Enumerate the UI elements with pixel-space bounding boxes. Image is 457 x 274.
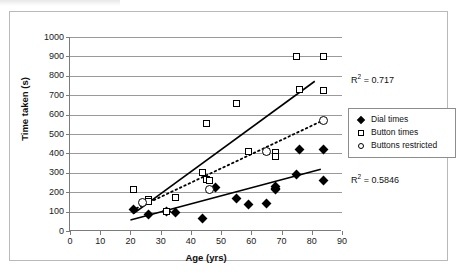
open-circle-icon — [354, 143, 368, 149]
x-axis-tick-label: 40 — [178, 237, 204, 246]
y-axis-title: Time taken (s) — [19, 54, 30, 164]
x-axis-tick — [342, 231, 343, 235]
legend-item-label: Dial times — [368, 114, 408, 125]
x-axis-tick-label: 30 — [148, 237, 174, 246]
legend-item: Dial times — [354, 113, 450, 126]
r2-annotation-dial-times: R2 = 0.5846 — [351, 172, 399, 185]
x-axis-tick-label: 50 — [208, 237, 234, 246]
x-axis-tick — [221, 231, 222, 235]
x-axis-tick — [70, 231, 71, 235]
plot-area: 01002003004005006007008009001000 0102030… — [69, 37, 341, 231]
r2-annotation-button-times: R2 = 0.717 — [351, 72, 394, 85]
x-axis-tick — [251, 231, 252, 235]
x-axis-tick-label: 70 — [269, 237, 295, 246]
trendlines — [70, 37, 342, 231]
filled-diamond-icon — [354, 117, 368, 123]
chart-screenshot: 01002003004005006007008009001000 0102030… — [0, 0, 457, 274]
legend-item-label: Button times — [368, 127, 418, 138]
x-axis-tick-label: 60 — [238, 237, 264, 246]
x-axis-tick — [130, 231, 131, 235]
r2-upper-value: = 0.717 — [361, 75, 394, 85]
legend-item: Button times — [354, 126, 450, 139]
x-axis-tick-label: 20 — [117, 237, 143, 246]
x-axis-tick-label: 10 — [87, 237, 113, 246]
x-axis-tick — [282, 231, 283, 235]
legend-item: Buttons restricted — [354, 139, 450, 152]
x-axis-title: Age (yrs) — [70, 252, 342, 263]
x-axis-tick-label: 0 — [57, 237, 83, 246]
y-axis-tick-label: 200 — [20, 188, 64, 197]
r2-lower-value: = 0.5846 — [361, 175, 399, 185]
y-axis-tick-label: 1000 — [20, 33, 64, 42]
open-square-icon — [354, 130, 368, 136]
y-axis-tick-label: 100 — [20, 207, 64, 216]
y-axis-tick-label: 300 — [20, 168, 64, 177]
trendline — [136, 120, 323, 208]
y-axis-tick-label: 0 — [20, 227, 64, 236]
chart-frame: 01002003004005006007008009001000 0102030… — [9, 11, 448, 261]
scan-artifact — [0, 0, 120, 6]
trendline — [133, 81, 314, 213]
x-axis-tick — [312, 231, 313, 235]
x-axis-tick — [191, 231, 192, 235]
chart-legend: Dial timesButton timesButtons restricted — [348, 108, 456, 158]
x-axis-tick — [100, 231, 101, 235]
legend-item-label: Buttons restricted — [368, 140, 437, 151]
x-axis-tick-label: 90 — [329, 237, 355, 246]
x-axis-tick-label: 80 — [299, 237, 325, 246]
x-axis-tick — [161, 231, 162, 235]
